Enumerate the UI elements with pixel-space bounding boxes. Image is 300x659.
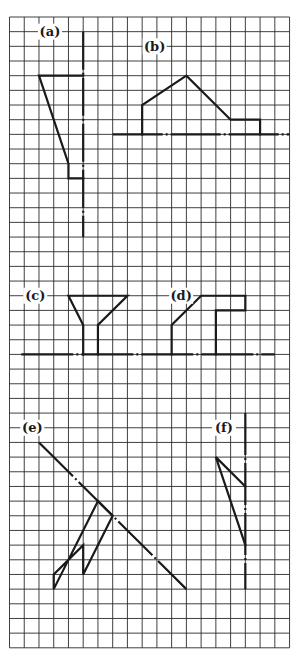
- label-f: (f): [212, 420, 236, 436]
- figure-labels: (a)(b)(c)(d)(e)(f): [20, 24, 236, 436]
- label-c: (c): [23, 288, 47, 304]
- label-d: (d): [169, 288, 193, 304]
- label-e: (e): [20, 420, 44, 436]
- label-text-f: (f): [215, 420, 233, 435]
- label-a: (a): [38, 24, 62, 40]
- projection-exercise-diagram: (a)(b)(c)(d)(e)(f): [0, 0, 300, 659]
- outline-a: [39, 76, 83, 179]
- label-text-b: (b): [144, 39, 165, 54]
- label-text-d: (d): [170, 288, 191, 303]
- label-b: (b): [143, 38, 167, 54]
- label-text-e: (e): [22, 420, 43, 435]
- label-text-c: (c): [25, 288, 45, 303]
- label-text-a: (a): [40, 24, 61, 39]
